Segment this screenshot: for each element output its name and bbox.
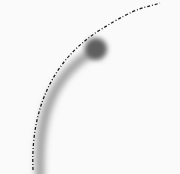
background [0,0,180,174]
blurred-knob [85,38,107,60]
scene-canvas [0,0,180,174]
